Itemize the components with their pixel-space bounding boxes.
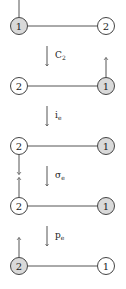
site-node-right: 1 [98,258,115,275]
operation-step: pe [47,226,65,246]
site-label: 1 [103,81,109,92]
site-label: 2 [16,81,22,92]
operation-step: ie [47,106,62,126]
site-label: 2 [16,261,22,272]
site-node-left: 2 [11,178,28,215]
configuration-row: 21 [11,238,115,275]
site-node-right: 1 [98,138,115,155]
operation-label: ie [55,110,62,121]
site-label: 2 [103,21,109,32]
site-node-right: 1 [98,198,115,215]
operation-step: C2 [47,46,66,66]
site-label: 1 [103,141,109,152]
site-label: 2 [16,141,22,152]
site-node-left: 2 [11,78,28,95]
site-label: 1 [16,21,22,32]
site-node-right: 2 [98,18,115,35]
site-label: 1 [103,201,109,212]
configuration-row: 21 [11,178,115,215]
operation-label: σe [55,170,65,181]
configuration-row: 21 [11,58,115,95]
site-node-left: 2 [11,138,28,175]
site-label: 2 [16,201,22,212]
configuration-row: 21 [11,138,115,175]
configuration-row: 12 [11,0,115,35]
site-node-left: 2 [11,238,28,275]
operation-label: C2 [55,50,66,61]
site-label: 1 [103,261,109,272]
site-node-left: 1 [11,0,28,35]
symmetry-operations-diagram: 1221212121 C2ieσepe [0,0,126,289]
operation-step: σe [47,166,65,186]
site-node-right: 1 [98,58,115,95]
operation-label: pe [55,230,65,241]
